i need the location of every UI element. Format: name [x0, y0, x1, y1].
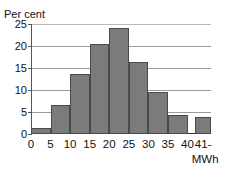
- y-axis-tick: [28, 90, 32, 91]
- x-axis-tick-label: 41-: [195, 137, 212, 151]
- x-axis-tick-label: 35: [162, 137, 175, 151]
- bar: [168, 115, 188, 134]
- x-axis-tick-labels: 051015202530354041-: [0, 137, 229, 153]
- bar: [90, 44, 110, 134]
- bar: [51, 105, 71, 134]
- x-axis-tick-label: 15: [83, 137, 96, 151]
- plot-area: [31, 24, 211, 134]
- y-axis-tick: [28, 68, 32, 69]
- bar: [129, 62, 149, 134]
- y-axis-tick-label: 15: [3, 63, 27, 74]
- y-axis-tick-label: 25: [3, 19, 27, 30]
- page-title: Of detached houses in 1995: [0, 0, 229, 2]
- y-axis-tick: [28, 46, 32, 47]
- bar-series: [31, 24, 211, 134]
- x-axis-tick-label: 10: [64, 137, 77, 151]
- y-axis-tick-label: 20: [3, 41, 27, 52]
- y-axis-tick: [28, 134, 32, 135]
- x-axis-tick-label: 40: [181, 137, 194, 151]
- chart-title-container: Of detached houses in 1995: [0, 0, 229, 3]
- y-axis-tick-label: 10: [3, 85, 27, 96]
- y-axis-tick-label: 5: [3, 107, 27, 118]
- x-axis-tick-label: 20: [103, 137, 116, 151]
- bar: [109, 28, 129, 134]
- x-axis-tick-label: 0: [28, 137, 34, 151]
- bar: [148, 92, 168, 134]
- x-axis-tick-label: 5: [47, 137, 53, 151]
- x-axis-tick-label: 30: [142, 137, 155, 151]
- bar: [195, 117, 211, 134]
- x-axis-unit-label: MWh: [192, 152, 219, 166]
- y-axis-tick: [28, 24, 32, 25]
- x-axis-tick-label: 25: [122, 137, 135, 151]
- y-axis-tick: [28, 112, 32, 113]
- y-axis-tick-labels: 2520151050: [1, 24, 27, 134]
- bar: [70, 74, 90, 134]
